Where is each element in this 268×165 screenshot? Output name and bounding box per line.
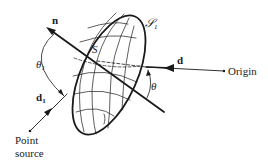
label-theta: θ <box>151 81 156 92</box>
label-source: source <box>15 148 44 159</box>
origin-point <box>223 70 225 72</box>
label-point: Point <box>15 135 38 146</box>
point-source-dot <box>29 130 32 133</box>
label-d: d <box>177 55 183 66</box>
label-surface: 𝒮1 <box>145 17 158 31</box>
label-d1: d1 <box>36 92 46 105</box>
label-s: S <box>92 44 98 55</box>
scattering-geometry-diagram <box>0 0 268 165</box>
direction-vector-d <box>146 64 225 72</box>
label-origin: Origin <box>228 66 257 77</box>
theta1-subscript: 1 <box>41 64 45 72</box>
label-theta1: θ1 <box>36 59 45 72</box>
label-n: n <box>52 15 58 26</box>
d1-subscript: 1 <box>42 97 46 105</box>
surface-subscript: 1 <box>154 23 158 31</box>
surface-symbol: 𝒮 <box>145 16 154 30</box>
direction-vector-d1 <box>29 94 67 132</box>
hidden-chord <box>97 61 146 67</box>
